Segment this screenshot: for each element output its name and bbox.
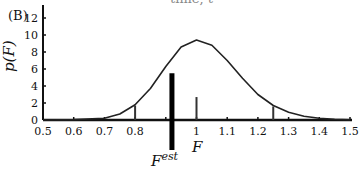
x-tick-label: 1.4	[311, 125, 329, 138]
panel-label: (B)	[8, 8, 28, 23]
y-tick-label: 10	[24, 29, 38, 42]
x-tick-label: 0.6	[65, 125, 83, 138]
x-tick-label: 1.2	[249, 125, 267, 138]
x-tick-label: 1.5	[341, 125, 359, 138]
y-tick-label: 8	[31, 46, 38, 59]
x-tick-label: 1	[193, 125, 200, 138]
x-tick-label: 0.8	[126, 125, 144, 138]
x-tick-label: 1.1	[218, 125, 236, 138]
f-est-bar	[169, 73, 174, 150]
f-est-base: F	[151, 152, 161, 170]
chart-canvas: 0246810120.50.60.70.811.11.21.31.41.5	[0, 0, 361, 171]
x-tick-label: 0.5	[34, 125, 52, 138]
x-axis-label: F	[192, 138, 202, 156]
f-est-superscript: est	[161, 150, 178, 163]
x-tick-label: 1.3	[280, 125, 298, 138]
cutoff-caption: time, t	[170, 0, 213, 6]
y-tick-label: 4	[31, 80, 38, 93]
x-tick-label: 0.7	[96, 125, 114, 138]
y-tick-label: 2	[31, 97, 38, 110]
f-est-label: Fest	[151, 150, 178, 170]
y-axis-label: p(F)	[0, 40, 18, 72]
y-tick-label: 6	[31, 63, 38, 76]
